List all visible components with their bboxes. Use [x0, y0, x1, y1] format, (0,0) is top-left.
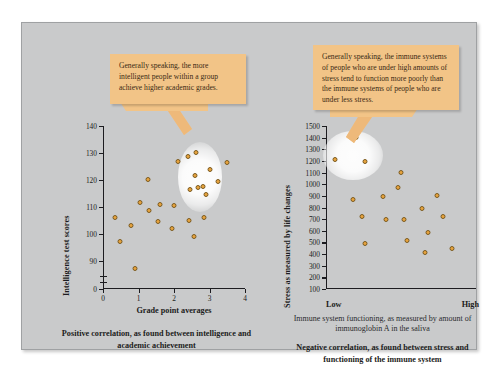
y-tick-right: [322, 149, 326, 150]
y-tick-left: [99, 126, 103, 127]
x-tick-left: [174, 289, 175, 293]
y-tick-label-right: 100: [309, 285, 320, 294]
y-tick-label-right: 1400: [305, 133, 320, 142]
x-axis-line-right: [326, 288, 476, 289]
data-point: [405, 238, 410, 243]
data-point: [402, 217, 407, 222]
y-tick-right: [322, 161, 326, 162]
data-point: [426, 230, 431, 235]
figure-root: Intelligence test scores 140130120110100…: [0, 0, 498, 372]
y-tick-right: [322, 277, 326, 278]
caption-right: Negative correlation, as found between s…: [280, 342, 485, 365]
x-axis-high-label: High: [462, 300, 479, 309]
callout-text-left: Generally speaking, the more intelligent…: [119, 61, 218, 92]
callout-text-right: Generally speaking, the immune systems o…: [322, 52, 447, 104]
data-point: [420, 206, 425, 211]
y-tick-right: [322, 184, 326, 185]
callout-box-right: Generally speaking, the immune systems o…: [313, 45, 459, 110]
y-tick-label-right: 500: [309, 238, 320, 247]
y-axis-label-left: Intelligence test scores: [62, 216, 71, 296]
data-point: [202, 215, 207, 220]
data-point: [172, 203, 177, 208]
data-point: [191, 234, 196, 239]
y-tick-label-right: 800: [309, 203, 320, 212]
y-tick-label-left: 90: [90, 256, 97, 265]
data-point: [186, 218, 191, 223]
data-point: [396, 185, 401, 190]
data-point: [384, 217, 389, 222]
data-point: [201, 184, 206, 189]
data-point: [363, 241, 368, 246]
y-tick-label-right: 900: [309, 191, 320, 200]
y-tick-label-right: 700: [309, 215, 320, 224]
data-point: [360, 214, 365, 219]
data-point: [157, 202, 162, 207]
x-tick-label-left: 2: [172, 294, 176, 303]
data-point: [147, 208, 152, 213]
data-point: [351, 197, 356, 202]
y-tick-right: [322, 219, 326, 220]
data-point: [399, 170, 404, 175]
data-point: [128, 223, 133, 228]
data-point: [113, 215, 118, 220]
y-tick-right: [322, 242, 326, 243]
x-axis-low-label: Low: [326, 300, 341, 309]
data-point: [435, 193, 440, 198]
data-point: [146, 177, 151, 182]
y-tick-left: [99, 207, 103, 208]
y-tick-label-right: 1100: [305, 168, 320, 177]
y-tick-right: [322, 289, 326, 290]
x-tick-label-left: 4: [243, 294, 247, 303]
y-tick-right: [322, 231, 326, 232]
y-tick-right: [322, 266, 326, 267]
data-point: [450, 246, 455, 251]
x-tick-left: [210, 289, 211, 293]
y-tick-right: [322, 196, 326, 197]
y-axis-break-left: [100, 276, 107, 277]
y-tick-label-right: 200: [309, 273, 320, 282]
y-tick-label-left: 130: [86, 148, 97, 157]
x-tick-label-left: 1: [137, 294, 141, 303]
figure-panel: Intelligence test scores 140130120110100…: [21, 22, 477, 350]
y-axis-line-left: [103, 126, 104, 289]
y-tick-label-right: 1500: [305, 122, 320, 131]
y-tick-left: [99, 153, 103, 154]
y-tick-label-right: 1200: [305, 156, 320, 165]
y-tick-left: [99, 180, 103, 181]
x-tick-label-left: 0: [101, 294, 105, 303]
data-point: [441, 214, 446, 219]
data-point: [138, 200, 143, 205]
x-axis-label-left: Grade point averages: [103, 306, 245, 315]
y-tick-label-left: 0: [93, 285, 97, 294]
y-tick-label-left: 100: [86, 229, 97, 238]
y-axis-line-right: [326, 126, 327, 289]
data-point: [216, 179, 221, 184]
callout-box-left: Generally speaking, the more intelligent…: [110, 54, 246, 104]
data-point: [118, 239, 123, 244]
data-point: [207, 167, 212, 172]
data-point: [170, 226, 175, 231]
data-point: [203, 192, 208, 197]
y-tick-label-left: 120: [86, 175, 97, 184]
callout-arrow-left: [118, 99, 208, 157]
data-point: [132, 266, 137, 271]
y-tick-label-left: 110: [86, 202, 97, 211]
x-tick-left: [245, 289, 246, 293]
callout-arrow-right: [330, 105, 420, 165]
y-tick-right: [322, 173, 326, 174]
y-tick-label-right: 300: [309, 261, 320, 270]
data-point: [156, 219, 161, 224]
x-tick-left: [103, 289, 104, 293]
y-tick-left: [99, 234, 103, 235]
y-axis-break-left: [100, 282, 107, 283]
y-tick-label-left: 140: [86, 122, 97, 131]
y-tick-label-right: 600: [309, 226, 320, 235]
y-tick-right: [322, 126, 326, 127]
data-point: [224, 160, 229, 165]
y-tick-right: [322, 138, 326, 139]
y-tick-label-right: 1000: [305, 180, 320, 189]
x-tick-left: [139, 289, 140, 293]
data-point: [175, 159, 180, 164]
y-tick-right: [322, 208, 326, 209]
data-point: [193, 173, 198, 178]
